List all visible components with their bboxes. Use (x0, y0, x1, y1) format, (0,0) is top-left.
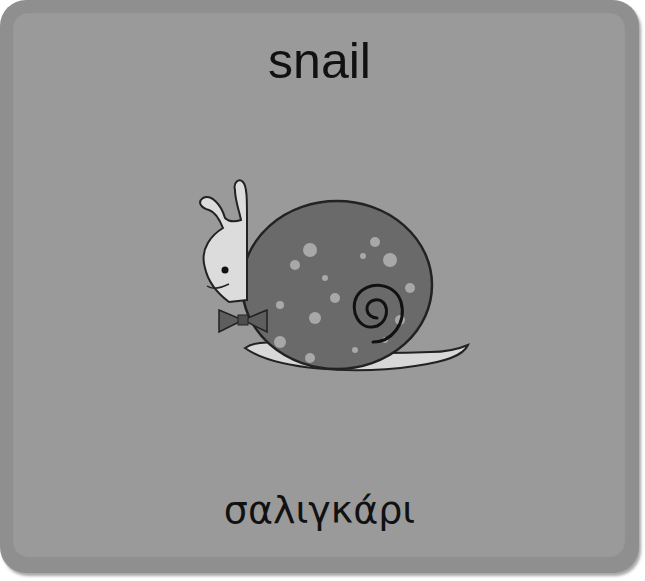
greek-word: σαλιγκάρι (0, 491, 639, 529)
flashcard: snail (0, 0, 639, 573)
snail-illustration (185, 170, 475, 385)
english-word: snail (0, 36, 639, 86)
